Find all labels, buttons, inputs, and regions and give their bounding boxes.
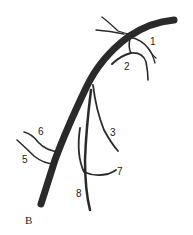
main-vessel <box>41 20 174 204</box>
label-branch-6: 6 <box>38 127 44 137</box>
label-branch-5: 5 <box>22 155 28 165</box>
branch-8 <box>85 90 91 210</box>
label-branch-1: 1 <box>150 37 156 47</box>
label-branch-3: 3 <box>110 128 116 138</box>
branch-3 <box>93 85 118 151</box>
vessel-diagram <box>0 0 193 235</box>
label-branch-2: 2 <box>124 62 130 72</box>
panel-label: B <box>25 215 32 226</box>
label-branch-8: 8 <box>76 189 82 199</box>
label-branch-7: 7 <box>117 167 123 177</box>
